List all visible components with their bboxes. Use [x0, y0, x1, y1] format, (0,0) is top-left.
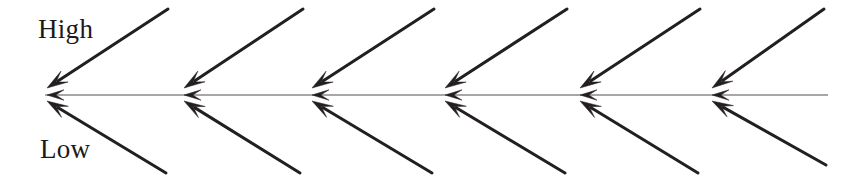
lower-arrow-5-head: [580, 101, 601, 117]
upper-arrow-2-shaft: [195, 9, 303, 81]
upper-branch-group: [47, 9, 824, 88]
upper-arrow-3-shaft: [323, 9, 434, 81]
lower-arrow-6-head: [712, 101, 733, 117]
upper-arrow-4-shaft: [456, 9, 567, 81]
lower-arrow-3-shaft: [323, 108, 432, 173]
lower-arrow-5-shaft: [591, 108, 698, 173]
lower-branch-group: [47, 101, 826, 173]
axis-label-high: High: [38, 16, 93, 43]
fishbone-arrow-diagram: High Low: [0, 0, 862, 182]
axis-label-low: Low: [40, 136, 90, 163]
lower-arrow-4-head: [445, 101, 466, 117]
lower-arrow-2-shaft: [195, 108, 300, 173]
lower-arrow-4-shaft: [456, 108, 565, 173]
upper-arrow-6-shaft: [723, 9, 824, 80]
lower-arrow-2-head: [184, 101, 205, 118]
lower-arrow-3-head: [312, 101, 333, 117]
upper-arrow-5-shaft: [591, 9, 700, 81]
lower-arrow-6-shaft: [723, 107, 826, 165]
diagram-canvas: [0, 0, 862, 182]
lower-arrow-1-head: [47, 101, 68, 117]
